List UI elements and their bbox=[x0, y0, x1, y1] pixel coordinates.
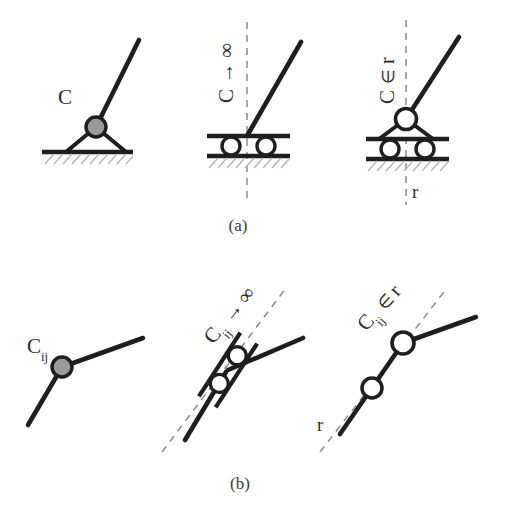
label-group-a3: C ∈ r bbox=[375, 57, 399, 104]
constraint-diagram-svg: C bbox=[0, 0, 505, 512]
roller-left-a2 bbox=[222, 137, 240, 155]
label-a2-infinity: ∞ bbox=[214, 43, 238, 58]
label-a2-arrow: → bbox=[215, 63, 237, 83]
figure-background bbox=[0, 0, 505, 512]
panel-b-caption: (b) bbox=[230, 474, 250, 493]
pin-joint-b1 bbox=[52, 357, 72, 377]
label-group-a2: C → ∞ bbox=[214, 43, 238, 103]
dashed-line-label-a3: r bbox=[412, 181, 419, 202]
label-a3-c: C bbox=[375, 90, 399, 104]
figure-root: C bbox=[0, 0, 505, 512]
label-a2-c: C bbox=[214, 89, 238, 103]
dashed-line-label-b3: r bbox=[317, 414, 324, 435]
roller-right-a2 bbox=[257, 137, 275, 155]
pin-joint-a1 bbox=[86, 117, 106, 137]
label-a3-element-of: ∈ bbox=[379, 69, 398, 84]
pin-joint-a3 bbox=[396, 109, 417, 130]
pin-joint-b3-upper bbox=[392, 332, 414, 354]
pin-joint-b3-lower bbox=[362, 378, 382, 398]
label-b1-c: C bbox=[27, 334, 41, 358]
label-b1-subscript: ij bbox=[41, 349, 48, 364]
panel-a-caption: (a) bbox=[229, 216, 248, 235]
label-a3-set: r bbox=[376, 57, 398, 64]
roller-right-a3 bbox=[416, 140, 434, 158]
roller-left-a3 bbox=[381, 140, 399, 158]
label-a1: C bbox=[58, 85, 72, 109]
